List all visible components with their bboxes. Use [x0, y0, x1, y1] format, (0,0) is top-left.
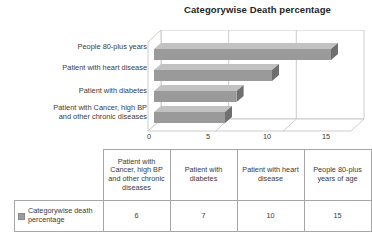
x-tick-label-0: 0: [139, 132, 159, 141]
table-header-people-80-plus: People 80-plus years of age: [304, 150, 371, 201]
bar-people-80-plus: [154, 43, 338, 60]
table-series-label: Categorywise death percentage: [28, 207, 94, 224]
table-row: Categorywise death percentage 6 7 10 15: [15, 201, 372, 232]
category-label-heart-disease: Patient with heart disease: [19, 63, 147, 72]
category-label-cancer-chronic: Patient with Cancer, high BP and other c…: [19, 103, 147, 121]
legend-swatch-icon: [18, 213, 25, 220]
bar-cancer-chronic: [154, 106, 232, 123]
category-label-diabetes: Patient with diabetes: [19, 86, 147, 95]
bar-heart-disease: [154, 64, 279, 81]
table-value-heart-disease: 10: [237, 201, 304, 232]
table-header-heart-disease: Patient with heart disease: [237, 150, 304, 201]
table-value-people-80-plus: 15: [304, 201, 371, 232]
category-label-cancer-line1: Patient with Cancer, high BP: [53, 103, 147, 112]
x-tick-label-5: 5: [198, 132, 218, 141]
chart-container: Categorywise Death percentage People 80-…: [0, 0, 371, 145]
table-value-diabetes: 7: [170, 201, 237, 232]
table-header-cancer-chronic: Patient with Cancer, high BP and other c…: [103, 150, 170, 201]
table-value-cancer-chronic: 6: [103, 201, 170, 232]
table-corner-cell: [15, 150, 104, 201]
plot-area: [147, 30, 365, 132]
x-tick-label-15: 15: [316, 132, 336, 141]
table-header-row: Patient with Cancer, high BP and other c…: [15, 150, 372, 201]
x-tick-label-10: 10: [257, 132, 277, 141]
category-label-cancer-line2: and other chronic diseases: [59, 112, 147, 121]
data-table: Patient with Cancer, high BP and other c…: [14, 149, 372, 232]
chart-title: Categorywise Death percentage: [150, 4, 365, 15]
table-header-diabetes: Patient with diabetes: [170, 150, 237, 201]
table-series-label-cell: Categorywise death percentage: [15, 201, 104, 232]
category-label-people-80-plus: People 80-plus years: [19, 42, 147, 51]
bar-diabetes: [154, 85, 244, 102]
